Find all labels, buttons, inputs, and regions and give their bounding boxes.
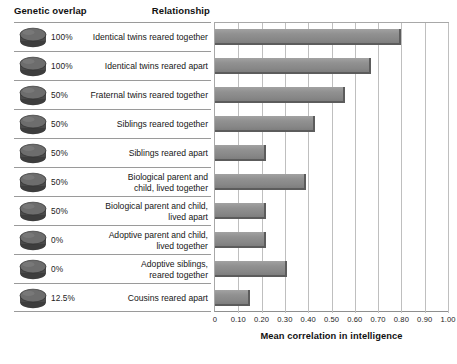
relationship-label: Fraternal twins reared together [74, 81, 208, 110]
x-tick-label: 0.40 [301, 315, 316, 324]
x-tick-label: 0.60 [347, 315, 362, 324]
x-tick-label: 0.50 [324, 315, 339, 324]
x-tick-label: 0 [213, 315, 217, 324]
x-tick-label: 0.90 [417, 315, 432, 324]
bar [215, 203, 266, 219]
disc-icon [18, 143, 48, 164]
x-tick-label: 0.20 [254, 315, 269, 324]
disc-icon [18, 27, 48, 48]
relationship-label: Siblings reared apart [74, 139, 208, 168]
relationship-label-line: child, lived together [134, 183, 208, 193]
relationship-label-line: Biological parent and child, [105, 201, 208, 211]
genetic-overlap-value: 50% [51, 119, 68, 129]
relationship-label: Adoptive siblings,reared together [74, 255, 208, 284]
x-tick-label: 0.30 [277, 315, 292, 324]
disc-icon [18, 85, 48, 106]
bar [215, 116, 315, 132]
gridline [448, 23, 449, 313]
relationship-label-line: Adoptive parent and child, [109, 230, 208, 240]
x-axis-tick-labels: 00.100.200.300.400.500.600.700.800.901.0… [214, 315, 449, 328]
genetic-overlap-value: 50% [51, 90, 68, 100]
relationship-label-line: Siblings reared together [117, 119, 208, 129]
x-tick-label: 0.10 [231, 315, 246, 324]
bar [215, 290, 250, 306]
relationship-label: Identical twins reared apart [74, 52, 208, 81]
x-tick-label: 1.00 [440, 315, 455, 324]
table-row: 12.5%Cousins reared apart [14, 283, 211, 312]
disc-icon [18, 172, 48, 193]
x-tick-label: 0.80 [394, 315, 409, 324]
table-row: 50%Siblings reared together [14, 109, 211, 138]
relationship-table: 100%Identical twins reared together100%I… [14, 22, 211, 312]
relationship-label-line: Siblings reared apart [129, 148, 208, 158]
relationship-label-line: Adoptive siblings, [141, 259, 208, 269]
relationship-label: Adoptive parent and child,lived together [74, 226, 208, 255]
disc-icon [18, 288, 48, 309]
relationship-label: Biological parent andchild, lived togeth… [74, 168, 208, 197]
bar [215, 29, 401, 45]
bar [215, 174, 306, 190]
table-row: 50%Biological parent andchild, lived tog… [14, 167, 211, 196]
genetic-overlap-value: 100% [51, 61, 73, 71]
relationship-label: Siblings reared together [74, 110, 208, 139]
bar [215, 87, 345, 103]
column-headers: Genetic overlap Relationship [0, 3, 457, 22]
column-header-relationship: Relationship [113, 5, 210, 16]
heritability-chart: Genetic overlap Relationship 100%Identic… [0, 0, 457, 364]
disc-icon [18, 56, 48, 77]
table-row: 50%Fraternal twins reared together [14, 80, 211, 109]
relationship-label-line: Identical twins reared together [93, 32, 208, 42]
gridline [425, 23, 426, 313]
column-header-genetic-overlap: Genetic overlap [14, 5, 87, 16]
table-row: 50%Biological parent and child,lived apa… [14, 196, 211, 225]
x-axis-title: Mean correlation in intelligence [214, 331, 449, 341]
relationship-label-line: lived apart [168, 212, 208, 222]
gridline [378, 23, 379, 313]
bar [215, 58, 371, 74]
table-row: 0%Adoptive siblings,reared together [14, 254, 211, 283]
genetic-overlap-value: 50% [51, 177, 68, 187]
table-row: 100%Identical twins reared together [14, 22, 211, 51]
relationship-label-line: reared together [149, 270, 208, 280]
genetic-overlap-value: 50% [51, 206, 68, 216]
x-tick-label: 0.70 [371, 315, 386, 324]
relationship-label-line: Identical twins reared apart [105, 61, 208, 71]
relationship-label: Cousins reared apart [74, 284, 208, 313]
genetic-overlap-value: 0% [51, 235, 63, 245]
gridline [401, 23, 402, 313]
disc-icon [18, 259, 48, 280]
plot-area [214, 22, 449, 312]
relationship-label-line: lived together [156, 241, 208, 251]
bar [215, 261, 287, 277]
genetic-overlap-value: 100% [51, 32, 73, 42]
table-row: 50%Siblings reared apart [14, 138, 211, 167]
disc-icon [18, 201, 48, 222]
genetic-overlap-value: 12.5% [51, 293, 75, 303]
table-row: 0%Adoptive parent and child,lived togeth… [14, 225, 211, 254]
relationship-label: Identical twins reared together [74, 23, 208, 52]
bar [215, 232, 266, 248]
disc-icon [18, 114, 48, 135]
disc-icon [18, 230, 48, 251]
relationship-label-line: Biological parent and [128, 172, 208, 182]
relationship-label: Biological parent and child,lived apart [74, 197, 208, 226]
genetic-overlap-value: 0% [51, 264, 63, 274]
genetic-overlap-value: 50% [51, 148, 68, 158]
relationship-label-line: Fraternal twins reared together [90, 90, 208, 100]
table-row: 100%Identical twins reared apart [14, 51, 211, 80]
bar [215, 145, 266, 161]
relationship-label-line: Cousins reared apart [128, 293, 208, 303]
